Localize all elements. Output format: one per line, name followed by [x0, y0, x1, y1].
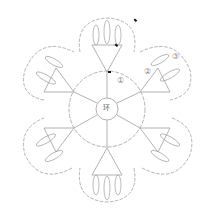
round-2-label: ② [144, 68, 151, 76]
round-3-label: ③ [172, 53, 179, 61]
start-markers [108, 19, 137, 73]
round-1-label: ① [117, 77, 124, 85]
center-ring-label: 环 [103, 105, 110, 112]
